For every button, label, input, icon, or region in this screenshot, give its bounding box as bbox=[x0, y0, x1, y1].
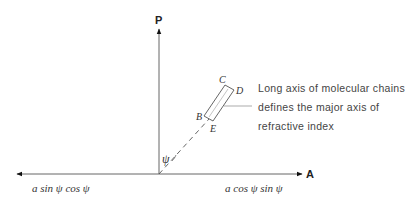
annotation-line-2: defines the major axis of bbox=[258, 101, 379, 113]
corner-label-b: B bbox=[196, 111, 202, 122]
axis-label-p: P bbox=[155, 14, 162, 26]
annotation-line-3: refractive index bbox=[258, 120, 334, 132]
corner-label-e: E bbox=[209, 123, 216, 134]
component-label-left: a sin ψ cos ψ bbox=[32, 182, 90, 194]
angle-label-psi: ψ bbox=[162, 152, 170, 166]
corner-label-d: D bbox=[235, 85, 244, 96]
polarization-diagram: P A ψ C D B E Long axis of molecular cha… bbox=[0, 0, 416, 202]
corner-label-c: C bbox=[219, 74, 226, 85]
component-label-right: a cos ψ sin ψ bbox=[225, 182, 283, 194]
annotation-line-1: Long axis of molecular chains bbox=[258, 82, 405, 94]
axis-label-a: A bbox=[306, 168, 314, 180]
molecular-chain-rectangle bbox=[204, 85, 234, 121]
